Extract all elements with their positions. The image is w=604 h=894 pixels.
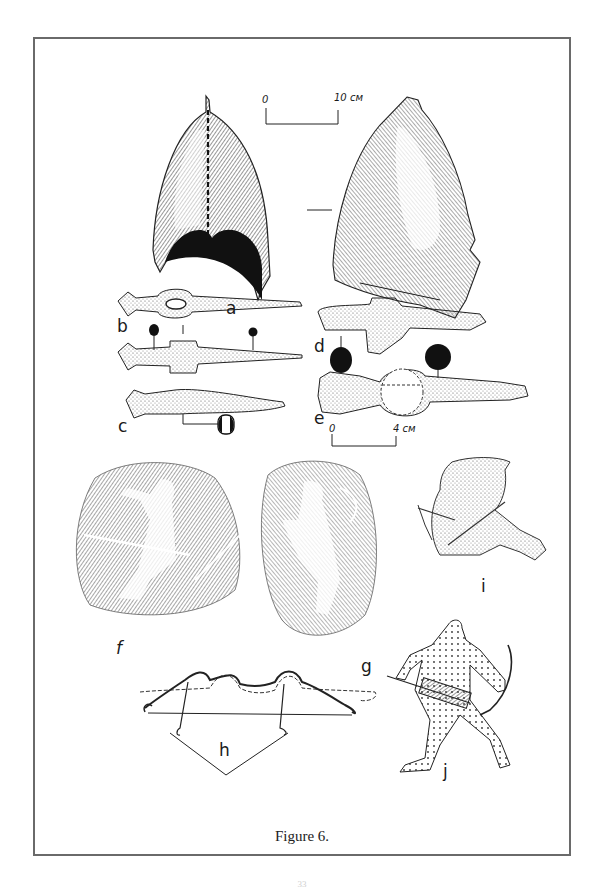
scale-bar-4cm [332, 434, 396, 446]
item-b-bottom-drawing [118, 341, 302, 373]
scale-10cm-end: 10 см [334, 93, 363, 103]
relief-f-drawing [76, 463, 240, 615]
figure-caption: Figure 6. [0, 828, 604, 845]
scale-4cm-start: 0 [329, 424, 335, 434]
panel-label-d: d [314, 338, 325, 355]
item-c-drawing [126, 389, 285, 434]
panel-label-h: h [219, 742, 230, 759]
helmet-front-drawing [153, 96, 270, 300]
panel-label-b: b [117, 318, 128, 335]
archer-j-drawing [387, 620, 511, 772]
panel-label-c: c [118, 418, 127, 435]
item-b-sections [149, 324, 258, 350]
panel-label-a: a [226, 300, 236, 317]
relief-g-drawing [261, 461, 376, 635]
panel-label-e: e [314, 410, 324, 427]
figure-plate [0, 0, 604, 894]
archer-i-drawing [418, 458, 546, 561]
item-b-top-drawing [118, 289, 302, 318]
page-number: 33 [0, 879, 604, 889]
scale-4cm-end: 4 см [393, 424, 416, 434]
panel-label-g: g [361, 658, 372, 675]
scale-bar-10cm [266, 108, 338, 124]
panel-label-i: i [481, 578, 486, 595]
bow-h-drawing [140, 672, 376, 776]
helmet-side-drawing [333, 97, 480, 318]
scale-10cm-start: 0 [262, 95, 268, 105]
panel-label-f: f [116, 640, 122, 657]
panel-label-j: j [443, 763, 448, 780]
